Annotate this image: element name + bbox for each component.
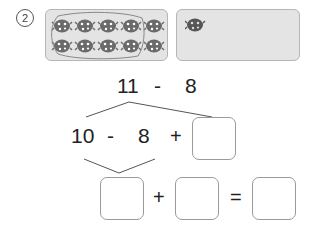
answer-box-result[interactable] <box>252 177 296 220</box>
step2-plus: + <box>153 186 165 209</box>
answer-box-step1[interactable] <box>192 117 236 160</box>
step1-op2: + <box>170 125 182 148</box>
step1-b: 8 <box>138 124 150 148</box>
step1-op1: - <box>107 124 114 148</box>
answer-box-second[interactable] <box>175 177 219 220</box>
step1-a: 10 <box>71 124 94 148</box>
step2-equals: = <box>230 186 242 209</box>
answer-box-first[interactable] <box>100 177 144 220</box>
